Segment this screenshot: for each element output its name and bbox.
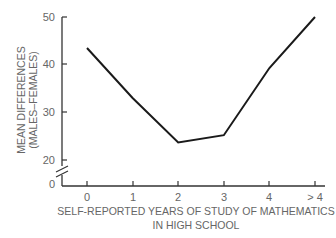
y-tick-label-30: 30 [43,106,55,118]
y-ticks [62,17,67,160]
x-tick-label-4: 4 [266,191,272,203]
x-tick-label-2: 2 [175,191,181,203]
line-chart: 50 40 30 20 0 0 1 2 3 4 > 4 SELF-REPORTE… [0,0,336,238]
y-tick-label-50: 50 [43,11,55,23]
y-tick-label-0: 0 [49,178,55,190]
y-axis-title-line2: (MALES–FEMALES) [27,51,39,148]
y-tick-labels: 50 40 30 20 0 [43,11,55,190]
y-axis-title-line1: MEAN DIFFERENCES [15,46,27,153]
y-tick-label-40: 40 [43,58,55,70]
x-tick-label-gt4: > 4 [307,191,323,203]
x-tick-label-3: 3 [221,191,227,203]
x-axis-title-line2: IN HIGH SCHOOL [153,219,240,231]
y-tick-label-20: 20 [43,154,55,166]
x-tick-label-0: 0 [84,191,90,203]
x-axis-title-line1: SELF-REPORTED YEARS OF STUDY OF MATHEMAT… [57,205,334,217]
x-tick-labels: 0 1 2 3 4 > 4 [84,191,323,203]
x-ticks [87,181,315,186]
series-line [87,17,315,142]
x-tick-label-1: 1 [130,191,136,203]
y-axis-title: MEAN DIFFERENCES (MALES–FEMALES) [15,46,39,153]
